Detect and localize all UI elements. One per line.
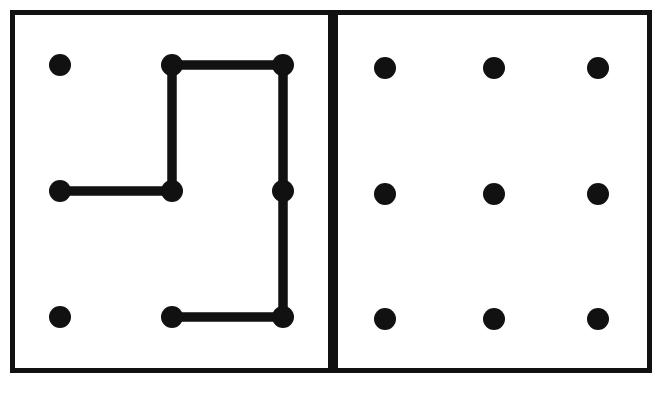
- right-panel-empty-grid: [336, 13, 650, 371]
- dot-row2-col2[interactable]: [587, 308, 609, 330]
- dot-row1-col0[interactable]: [374, 183, 396, 205]
- figure-canvas: [0, 0, 669, 396]
- dot-row2-col2[interactable]: [272, 306, 294, 328]
- dot-row2-col1[interactable]: [161, 306, 183, 328]
- dot-row2-col1[interactable]: [483, 308, 505, 330]
- dot-row1-col1[interactable]: [483, 183, 505, 205]
- dot-row1-col1[interactable]: [161, 180, 183, 202]
- panels-group: [13, 13, 650, 371]
- dot-row2-col0[interactable]: [49, 306, 71, 328]
- dot-row0-col1[interactable]: [161, 54, 183, 76]
- dot-row1-col0[interactable]: [49, 180, 71, 202]
- dot-row1-col2[interactable]: [587, 183, 609, 205]
- two-panel-dot-grid-figure: [0, 0, 669, 396]
- left-panel-with-path: [13, 13, 331, 371]
- dot-row2-col0[interactable]: [374, 308, 396, 330]
- dot-row0-col2[interactable]: [587, 57, 609, 79]
- dot-row0-col2[interactable]: [272, 54, 294, 76]
- dot-row0-col0[interactable]: [374, 57, 396, 79]
- dot-row1-col2[interactable]: [272, 180, 294, 202]
- dot-row0-col0[interactable]: [49, 54, 71, 76]
- dot-row0-col1[interactable]: [483, 57, 505, 79]
